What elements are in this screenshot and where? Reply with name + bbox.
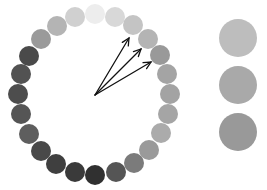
wheel-circle <box>11 64 31 84</box>
wheel-circle <box>65 162 85 182</box>
color-swatch <box>219 66 257 104</box>
wheel-circle <box>31 141 51 161</box>
wheel-circle <box>31 29 51 49</box>
wheel-circle <box>85 165 105 185</box>
wheel-circle <box>150 45 170 65</box>
wheel-circle <box>8 84 28 104</box>
wheel-circle <box>151 123 171 143</box>
wheel-circle <box>11 104 31 124</box>
color-wheel-diagram <box>0 0 267 190</box>
wheel-circle <box>157 64 177 84</box>
wheel-circle <box>106 162 126 182</box>
wheel-circle <box>19 124 39 144</box>
wheel-circle <box>160 84 180 104</box>
grayscale-wheel <box>8 4 180 185</box>
wheel-circle <box>158 104 178 124</box>
color-swatch <box>219 19 257 57</box>
wheel-circle <box>124 153 144 173</box>
wheel-circle <box>65 7 85 27</box>
wheel-circle <box>123 15 143 35</box>
wheel-circle <box>138 29 158 49</box>
swatch-column <box>219 19 257 151</box>
wheel-circle <box>85 4 105 24</box>
wheel-circle <box>105 7 125 27</box>
wheel-circle <box>19 46 39 66</box>
color-swatch <box>219 113 257 151</box>
wheel-circle <box>47 16 67 36</box>
